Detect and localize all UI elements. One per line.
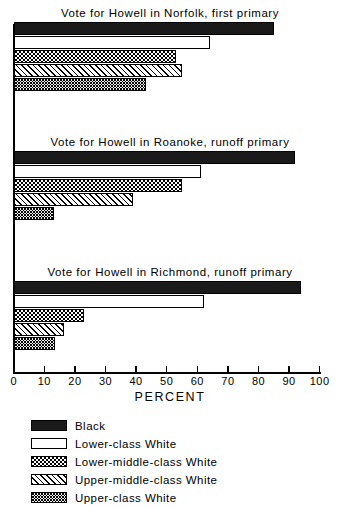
legend-swatch-lower-class-white [31, 438, 67, 449]
legend-label-black: Black [75, 420, 105, 432]
legend-label-lower-middle-class-white: Lower-middle-class White [75, 456, 217, 468]
bar-richmond-black [14, 281, 301, 294]
bar-norfolk-upper-middle-class-white [14, 64, 182, 77]
bar-roanoke-upper-middle-class-white [14, 193, 133, 206]
x-tick-label-70: 70 [213, 375, 243, 387]
bar-row [0, 323, 350, 336]
bar-row [0, 179, 350, 192]
bar-row [0, 78, 350, 91]
bar-row [0, 151, 350, 164]
x-tick-0 [13, 366, 14, 373]
x-tick-label-30: 30 [91, 375, 121, 387]
legend-swatch-upper-middle-class-white [31, 474, 67, 485]
bar-row [0, 207, 350, 220]
legend-item-lower-class-white: Lower-class White [31, 436, 217, 452]
x-tick-40 [135, 366, 136, 373]
x-tick-90 [288, 366, 289, 373]
bar-richmond-lower-class-white [14, 295, 204, 308]
x-axis-title: PERCENT [0, 390, 340, 404]
x-tick-60 [197, 366, 198, 373]
x-tick-label-100: 100 [305, 375, 335, 387]
panel-roanoke-bars [0, 151, 350, 221]
legend-item-upper-class-white: Upper-class White [31, 490, 217, 506]
bar-norfolk-upper-class-white [14, 78, 146, 91]
bar-roanoke-lower-middle-class-white [14, 179, 182, 192]
bar-richmond-lower-middle-class-white [14, 309, 84, 322]
x-tick-label-50: 50 [152, 375, 182, 387]
bar-row [0, 281, 350, 294]
x-tick-label-20: 20 [60, 375, 90, 387]
x-tick-label-60: 60 [182, 375, 212, 387]
bar-row [0, 22, 350, 35]
panel-title-roanoke: Vote for Howell in Roanoke, runoff prima… [0, 135, 340, 149]
bar-roanoke-upper-class-white [14, 207, 54, 220]
x-tick-label-10: 10 [29, 375, 59, 387]
bar-roanoke-lower-class-white [14, 165, 201, 178]
x-tick-label-40: 40 [121, 375, 151, 387]
bar-row [0, 165, 350, 178]
legend-label-upper-middle-class-white: Upper-middle-class White [75, 474, 217, 486]
panel-title-richmond: Vote for Howell in Richmond, runoff prim… [0, 265, 340, 279]
panel-richmond-bars [0, 281, 350, 351]
bar-richmond-upper-middle-class-white [14, 323, 64, 336]
legend-item-upper-middle-class-white: Upper-middle-class White [31, 472, 217, 488]
bar-row [0, 64, 350, 77]
legend-item-lower-middle-class-white: Lower-middle-class White [31, 454, 217, 470]
legend-swatch-upper-class-white [31, 492, 67, 503]
bar-roanoke-black [14, 151, 295, 164]
legend: Black Lower-class White Lower-middle-cla… [31, 418, 217, 507]
bar-norfolk-black [14, 22, 274, 35]
x-tick-10 [44, 366, 45, 373]
bar-row [0, 309, 350, 322]
x-tick-100 [319, 366, 320, 373]
x-tick-label-80: 80 [244, 375, 274, 387]
x-tick-label-0: 0 [0, 375, 29, 387]
bar-row [0, 337, 350, 350]
x-tick-50 [166, 366, 167, 373]
legend-item-black: Black [31, 418, 217, 434]
x-tick-70 [227, 366, 228, 373]
x-tick-30 [105, 366, 106, 373]
bar-norfolk-lower-middle-class-white [14, 50, 176, 63]
bar-row [0, 36, 350, 49]
bar-norfolk-lower-class-white [14, 36, 210, 49]
bar-row [0, 295, 350, 308]
y-axis-line [13, 24, 15, 372]
legend-label-lower-class-white: Lower-class White [75, 438, 177, 450]
bar-richmond-upper-class-white [14, 337, 55, 350]
x-tick-label-90: 90 [274, 375, 304, 387]
bar-row [0, 193, 350, 206]
legend-swatch-black [31, 420, 67, 431]
x-tick-80 [258, 366, 259, 373]
legend-label-upper-class-white: Upper-class White [75, 492, 177, 504]
x-tick-20 [74, 366, 75, 373]
panel-title-norfolk: Vote for Howell in Norfolk, first primar… [0, 6, 340, 20]
bar-row [0, 50, 350, 63]
legend-swatch-lower-middle-class-white [31, 456, 67, 467]
panel-norfolk-bars [0, 22, 350, 92]
bar-chart-figure: Vote for Howell in Norfolk, first primar… [0, 0, 350, 507]
